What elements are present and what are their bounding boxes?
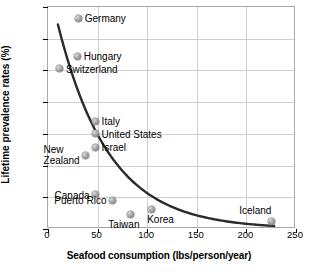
x-tick-label: 200: [230, 230, 260, 240]
data-point-marker[interactable]: [109, 197, 116, 204]
plot-area: GermanyHungarySwitzerlandItalyUnited Sta…: [47, 6, 295, 228]
data-point-marker[interactable]: [268, 218, 275, 225]
x-axis-title: Seafood consumption (lbs/person/year): [0, 250, 318, 261]
data-point-marker[interactable]: [92, 118, 99, 125]
data-point-label: United States: [102, 128, 162, 139]
y-axis-title: Lifetime prevalence rates (%): [0, 0, 12, 228]
data-point-marker[interactable]: [75, 15, 82, 22]
data-point-label: Taiwan: [108, 219, 139, 230]
x-tick-label: 150: [181, 230, 211, 240]
data-point-label: Iceland: [239, 205, 271, 216]
data-point-label: Italy: [102, 116, 120, 127]
x-tick-label: 0: [32, 230, 62, 240]
data-point-label: Germany: [85, 13, 126, 24]
scatter-chart: Lifetime prevalence rates (%) GermanyHun…: [0, 0, 318, 278]
data-point-marker[interactable]: [127, 211, 134, 218]
x-tick-label: 100: [131, 230, 161, 240]
data-point-marker[interactable]: [74, 53, 81, 60]
x-tick-label: 50: [82, 230, 112, 240]
data-point-label: NewZealand: [44, 145, 80, 166]
data-point-label: Korea: [147, 214, 174, 225]
data-point-label: Hungary: [84, 51, 122, 62]
data-point-label: Israel: [102, 142, 126, 153]
data-point-label: Puerto Rico: [54, 195, 106, 206]
x-tick-label: 250: [280, 230, 310, 240]
data-point-label: Switzerland: [66, 63, 118, 74]
